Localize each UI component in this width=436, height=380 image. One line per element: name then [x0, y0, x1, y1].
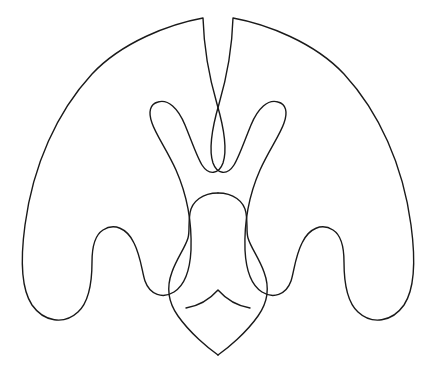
drawing-canvas: Symmetric Ornamental Line Drawing — [0, 0, 436, 380]
canvas-background — [0, 0, 436, 380]
line-art-illustration: Symmetric Ornamental Line Drawing — [0, 0, 436, 380]
